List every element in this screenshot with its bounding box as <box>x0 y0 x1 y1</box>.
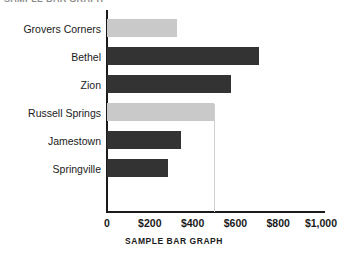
x-axis-tick-labels: 0 $200 $400 $600 $800 $1,000 <box>0 216 348 232</box>
bar-chart: Grovers Corners Bethel Zion Russell Spri… <box>0 0 348 260</box>
bar-jamestown <box>107 131 181 149</box>
bar-russell-springs <box>107 103 214 121</box>
x-tick-400: $400 <box>181 216 204 230</box>
chart-caption: SAMPLE BAR GRAPH <box>0 236 348 246</box>
page-root: SAMPLE BAR GRAPH Grovers Corners Bethel … <box>0 0 348 260</box>
category-label-bethel: Bethel <box>0 51 101 63</box>
category-label-jamestown: Jamestown <box>0 135 101 147</box>
x-tick-0: 0 <box>104 216 110 230</box>
x-tick-800: $800 <box>267 216 290 230</box>
x-tick-200: $200 <box>138 216 161 230</box>
category-label-zion: Zion <box>0 79 101 91</box>
category-label-grovers-corners: Grovers Corners <box>0 23 101 35</box>
bar-zion <box>107 75 231 93</box>
x-tick-600: $600 <box>224 216 247 230</box>
category-label-springville: Springville <box>0 163 101 175</box>
category-label-russell-springs: Russell Springs <box>0 107 101 119</box>
bar-bethel <box>107 47 259 65</box>
bar-grovers-corners <box>107 19 177 37</box>
x-tick-1000: $1,000 <box>305 216 337 230</box>
bar-springville <box>107 159 168 177</box>
